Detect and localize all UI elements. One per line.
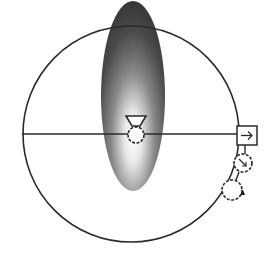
connector-line-2 (236, 172, 239, 180)
dashed-circle-diagonal-arrow-icon (234, 154, 252, 172)
diagram-canvas (0, 0, 273, 260)
center-dashed-circle-icon (128, 127, 144, 143)
diagram-svg (0, 0, 273, 260)
right-arrow-box-icon (237, 126, 257, 145)
dashed-circle-triangle-icon (222, 180, 245, 200)
